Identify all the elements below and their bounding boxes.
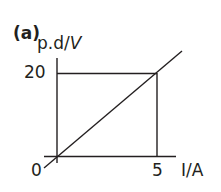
- data-line: [44, 51, 182, 168]
- plot-area: [0, 0, 221, 192]
